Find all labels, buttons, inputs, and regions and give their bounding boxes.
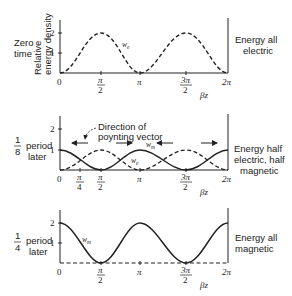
poynting-annotation-line2: poynting vector [98, 131, 162, 142]
left-label-line2: later [29, 246, 47, 257]
x-tick-3pi-over-2-den: 2 [183, 275, 188, 285]
we-curve [60, 150, 228, 170]
wm-curve [60, 150, 228, 170]
right-label-line1: Energy all [235, 232, 277, 243]
panel-zero-time: Zero time Relative energy density 2 1 0 … [14, 13, 277, 100]
y-tick-1: 1 [50, 145, 55, 155]
we-label: we [122, 40, 130, 50]
right-label-line1: Energy all [235, 34, 277, 45]
right-label-line2: electric, half [234, 154, 285, 165]
we-label: we [131, 156, 139, 166]
x-tick-pi: π [137, 77, 142, 87]
y-axis-label-line2: energy density [42, 13, 53, 75]
x-tick-pi-over-4-den: 4 [77, 182, 82, 192]
y-tick-1: 1 [50, 238, 55, 248]
frac-num: 1 [15, 134, 20, 145]
annotation-pointer-arrow [85, 128, 96, 139]
panel-quarter-period: 1 4 period later 2 1 0 π 2 π 3π 2 2π βz … [14, 208, 277, 290]
left-label-line1: period [26, 140, 52, 151]
x-tick-3pi-over-2-num: 3π [180, 75, 191, 85]
frac-num: 1 [15, 230, 20, 241]
right-label-line1: Energy half [234, 143, 282, 154]
x-tick-0: 0 [57, 77, 62, 87]
x-tick-pi: π [137, 267, 142, 277]
x-tick-pi-over-4-num: π [77, 172, 82, 182]
y-tick-2: 2 [50, 218, 55, 228]
x-tick-pi-over-2-den: 2 [98, 182, 103, 192]
x-tick-3pi-over-2-den: 2 [183, 182, 188, 192]
x-tick-2pi: 2π [222, 174, 232, 184]
y-tick-1: 1 [50, 48, 55, 58]
left-label-line2: time [14, 48, 32, 59]
x-tick-pi-over-2-num: π [98, 75, 103, 85]
left-label-line1: Zero [14, 37, 34, 48]
x-tick-pi: π [137, 174, 142, 184]
right-label-line3: magnetic [240, 165, 279, 176]
left-label-line1: period [26, 235, 52, 246]
frac-den: 8 [15, 146, 20, 157]
x-axis-label: βz [199, 280, 208, 290]
x-tick-pi-over-2-num: π [98, 172, 103, 182]
panel-eighth-period: 1 8 period later 2 1 0 π 4 π 2 π 3π 2 2π… [14, 114, 285, 197]
we-curve [60, 33, 228, 73]
x-axis-label: βz [199, 187, 208, 197]
x-tick-0: 0 [57, 267, 62, 277]
x-tick-pi-over-2-den: 2 [98, 85, 103, 95]
energy-density-diagram: Zero time Relative energy density 2 1 0 … [0, 0, 292, 296]
x-tick-0: 0 [57, 174, 62, 184]
x-tick-pi-over-2-den: 2 [98, 275, 103, 285]
frac-den: 4 [15, 242, 20, 253]
left-label-line2: later [28, 151, 46, 162]
wm-label: wm [82, 235, 91, 245]
x-tick-2pi: 2π [222, 77, 232, 87]
y-tick-2: 2 [50, 124, 55, 134]
x-tick-3pi-over-2-den: 2 [183, 85, 188, 95]
x-tick-3pi-over-2-num: 3π [180, 172, 191, 182]
right-label-line2: magnetic [235, 243, 274, 254]
x-tick-pi-over-2-num: π [98, 265, 103, 275]
y-tick-2: 2 [50, 28, 55, 38]
x-axis-label: βz [199, 90, 208, 100]
right-label-line2: electric [243, 45, 273, 56]
x-tick-2pi: 2π [222, 267, 232, 277]
x-tick-3pi-over-2-num: 3π [180, 265, 191, 275]
